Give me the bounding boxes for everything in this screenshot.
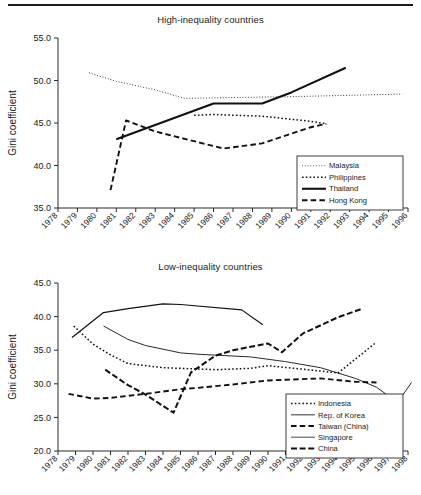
y-tick-label: 55.0 — [33, 33, 51, 43]
y-tick-label: 35.0 — [33, 345, 51, 355]
x-tick-label: 1985 — [175, 210, 195, 230]
x-tick-label: 1987 — [197, 453, 217, 473]
series-line — [104, 326, 412, 403]
x-tick-label: 1979 — [59, 210, 79, 230]
y-tick-label: 20.0 — [33, 446, 51, 456]
x-tick-label: 1991 — [292, 210, 312, 230]
x-tick-label: 1996 — [389, 210, 409, 230]
chart-high-inequality: 35.040.045.050.055.019781979198019811982… — [0, 8, 421, 253]
x-tick-label: 1992 — [311, 210, 331, 230]
x-tick-label: 1990 — [249, 453, 269, 473]
x-tick-label: 1981 — [97, 210, 117, 230]
x-tick-label: 1986 — [179, 453, 199, 473]
legend-label: Malaysia — [329, 161, 360, 170]
x-tick-label: 1983 — [136, 210, 156, 230]
legend-label: Thailand — [329, 184, 358, 193]
legend-label: Hong Kong — [329, 196, 367, 205]
x-tick-label: 1989 — [253, 210, 273, 230]
y-tick-label: 40.0 — [33, 161, 51, 171]
x-tick-label: 1993 — [331, 210, 351, 230]
series-line — [116, 68, 345, 139]
y-tick-label: 30.0 — [33, 379, 51, 389]
x-tick-label: 1984 — [156, 210, 176, 230]
header-rule — [8, 4, 413, 6]
series-line — [74, 326, 377, 373]
x-tick-label: 1986 — [195, 210, 215, 230]
legend-label: Philippines — [329, 173, 366, 182]
y-tick-label: 35.0 — [33, 203, 51, 213]
figure-root: High-inequality countries 35.040.045.050… — [0, 0, 421, 495]
legend-label: Taiwan (China) — [318, 422, 369, 431]
panel-low-inequality: Low-inequality countries 20.025.030.035.… — [0, 255, 421, 495]
x-tick-label: 1979 — [57, 453, 77, 473]
y-tick-label: 50.0 — [33, 76, 51, 86]
legend-label: Indonesia — [318, 399, 352, 408]
y-tick-label: 40.0 — [33, 312, 51, 322]
y-tick-label: 25.0 — [33, 413, 51, 423]
x-tick-label: 1991 — [267, 453, 287, 473]
x-tick-label: 1982 — [109, 453, 129, 473]
x-tick-label: 1989 — [232, 453, 252, 473]
y-tick-label: 45.0 — [33, 278, 51, 288]
x-tick-label: 1981 — [92, 453, 112, 473]
x-tick-label: 1988 — [214, 453, 234, 473]
legend-label: Rep. of Korea — [318, 411, 366, 420]
legend-label: Singapore — [318, 433, 353, 442]
y-axis-title: Gini coefficient — [7, 334, 18, 400]
x-tick-label: 1988 — [234, 210, 254, 230]
x-tick-label: 1994 — [350, 210, 370, 230]
x-tick-label: 1987 — [214, 210, 234, 230]
x-tick-label: 1995 — [370, 210, 390, 230]
chart-low-inequality: 20.025.030.035.040.045.01978197919801981… — [0, 255, 421, 495]
x-tick-label: 1990 — [272, 210, 292, 230]
x-tick-label: 1980 — [74, 453, 94, 473]
x-tick-label: 1984 — [144, 453, 164, 473]
series-line — [111, 120, 327, 190]
panel-high-inequality: High-inequality countries 35.040.045.050… — [0, 8, 421, 253]
x-tick-label: 1980 — [78, 210, 98, 230]
x-tick-label: 1985 — [162, 453, 182, 473]
x-tick-label: 1982 — [117, 210, 137, 230]
y-tick-label: 45.0 — [33, 118, 51, 128]
series-line — [194, 115, 326, 124]
series-line — [89, 73, 402, 99]
x-tick-label: 1983 — [127, 453, 147, 473]
series-line — [72, 304, 263, 338]
y-axis-title: Gini coefficient — [7, 90, 18, 156]
legend-label: China — [318, 444, 339, 453]
